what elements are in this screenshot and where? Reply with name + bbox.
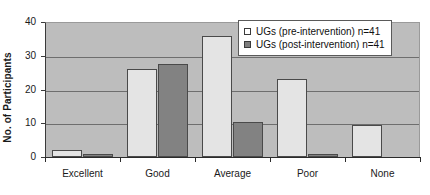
legend-swatch-icon: [244, 41, 251, 48]
x-tick-label: Excellent: [45, 168, 120, 180]
x-tick-mark: [270, 157, 271, 162]
bar: [233, 122, 263, 157]
bar: [202, 36, 232, 158]
x-tick-mark: [120, 157, 121, 162]
y-tick-label: 10: [10, 118, 36, 128]
x-tick-mark: [345, 157, 346, 162]
x-tick-label: Average: [195, 168, 270, 180]
bar: [352, 125, 382, 157]
x-tick-label: None: [345, 168, 420, 180]
legend-label: UGs (post-intervention) n=41: [256, 39, 385, 51]
bar-chart: No. of Participants 010203040 ExcellentG…: [0, 0, 430, 195]
bar: [277, 79, 307, 157]
y-axis-title: No. of Participants: [0, 0, 14, 195]
x-tick-label: Poor: [270, 168, 345, 180]
x-tick-label: Good: [120, 168, 195, 180]
x-axis-line: [45, 157, 420, 158]
y-tick-label: 30: [10, 51, 36, 61]
x-tick-mark: [45, 157, 46, 162]
legend: UGs (pre-intervention) n=41UGs (post-int…: [238, 20, 392, 56]
bar-group: [120, 22, 195, 157]
x-tick-mark: [195, 157, 196, 162]
bar-group: [45, 22, 120, 157]
x-tick-mark: [420, 157, 421, 162]
legend-item: UGs (pre-intervention) n=41: [244, 25, 385, 38]
y-tick-label: 0: [10, 152, 36, 162]
legend-swatch-icon: [244, 28, 251, 35]
legend-item: UGs (post-intervention) n=41: [244, 38, 385, 51]
y-tick-label: 20: [10, 85, 36, 95]
bar: [127, 69, 157, 157]
bar: [158, 64, 188, 157]
legend-label: UGs (pre-intervention) n=41: [256, 26, 380, 38]
y-tick-label: 40: [10, 17, 36, 27]
bar: [52, 150, 82, 157]
